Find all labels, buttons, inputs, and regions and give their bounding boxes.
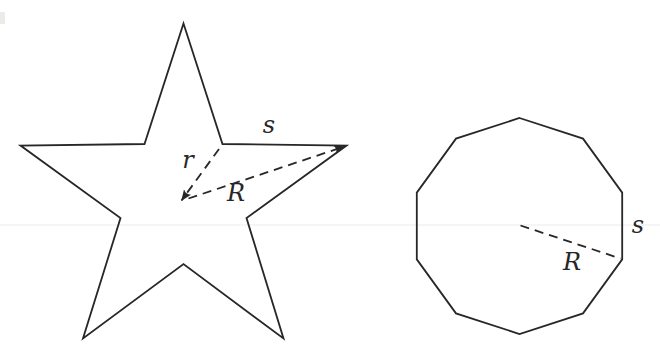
pentagram-star-outline <box>21 24 347 339</box>
pentagram-star-inner-radius-label: r <box>182 146 195 174</box>
diagram-canvas: srRRs <box>0 0 660 357</box>
regular-decagon-circumradius-label: R <box>562 248 581 276</box>
regular-decagon-outline <box>417 118 622 334</box>
pentagram-star-circumradius-label: R <box>226 179 245 207</box>
pentagram-star-circumradius-line <box>189 147 345 199</box>
pentagram-star-side-length-label: s <box>263 111 275 139</box>
polygon-diagram-svg: srRRs <box>0 0 660 357</box>
regular-decagon-side-length-label: s <box>632 211 644 239</box>
page-scan-speck <box>0 12 5 24</box>
